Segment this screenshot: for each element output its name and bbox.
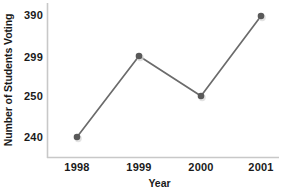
- x-tick-label: 2001: [231, 161, 281, 173]
- x-tick-label: 2000: [171, 161, 231, 173]
- x-tick-label: 1998: [47, 161, 107, 173]
- x-axis-tick-labels: 1998199920002001: [0, 0, 281, 193]
- x-axis-title: Year: [0, 177, 281, 189]
- x-axis-title-text: Year: [148, 177, 170, 189]
- x-tick-label: 1999: [109, 161, 169, 173]
- line-chart: Number of Students Voting 390299250240 1…: [0, 0, 281, 193]
